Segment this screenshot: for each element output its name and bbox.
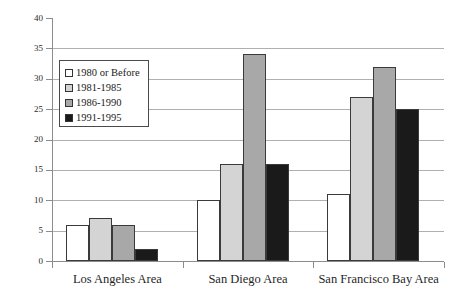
legend-swatch-icon bbox=[65, 99, 73, 107]
bar bbox=[243, 54, 266, 261]
y-tick-label-10: 10 bbox=[0, 196, 43, 205]
bar bbox=[66, 225, 89, 261]
bar bbox=[327, 194, 350, 261]
bar bbox=[266, 164, 289, 261]
bar bbox=[89, 218, 112, 261]
legend-entry-label: 1986-1990 bbox=[76, 97, 122, 108]
y-tick-label-0: 0 bbox=[0, 257, 43, 266]
bar bbox=[350, 97, 373, 261]
y-tick-15 bbox=[46, 170, 52, 171]
y-tick-label-25: 25 bbox=[0, 105, 43, 114]
legend-entry-label: 1980 or Before bbox=[76, 67, 140, 78]
y-tick-label-20: 20 bbox=[0, 135, 43, 144]
y-tick-40 bbox=[46, 18, 52, 19]
y-tick-label-5: 5 bbox=[0, 226, 43, 235]
y-tick-10 bbox=[46, 200, 52, 201]
legend-entry-label: 1991-1995 bbox=[76, 112, 122, 123]
x-separator-tick-1 bbox=[183, 262, 184, 268]
y-tick-30 bbox=[46, 79, 52, 80]
x-separator-tick-0 bbox=[52, 262, 53, 268]
gridline-35 bbox=[52, 48, 444, 49]
legend: 1980 or Before1981-19851986-19901991-199… bbox=[59, 60, 149, 127]
bar bbox=[396, 109, 419, 261]
y-tick-35 bbox=[46, 48, 52, 49]
y-tick-20 bbox=[46, 140, 52, 141]
legend-entry: 1991-1995 bbox=[65, 110, 144, 125]
y-axis-line bbox=[52, 18, 53, 262]
bar bbox=[220, 164, 243, 261]
legend-entry: 1986-1990 bbox=[65, 95, 144, 110]
x-category-label: San Diego Area bbox=[183, 272, 314, 286]
legend-entries: 1980 or Before1981-19851986-19901991-199… bbox=[65, 65, 144, 125]
x-separator-tick-3 bbox=[444, 262, 445, 268]
bar bbox=[135, 249, 158, 261]
x-category-label: San Francisco Bay Area bbox=[313, 272, 444, 286]
legend-swatch-icon bbox=[65, 69, 73, 77]
x-category-label: Los Angeles Area bbox=[52, 272, 183, 286]
y-tick-5 bbox=[46, 231, 52, 232]
legend-entry: 1980 or Before bbox=[65, 65, 144, 80]
y-tick-label-15: 15 bbox=[0, 165, 43, 174]
y-tick-label-30: 30 bbox=[0, 74, 43, 83]
bar-chart: 0510152025303540 Los Angeles AreaSan Die… bbox=[0, 0, 468, 299]
bar bbox=[197, 200, 220, 261]
legend-swatch-icon bbox=[65, 84, 73, 92]
x-separator-tick-2 bbox=[313, 262, 314, 268]
legend-entry-label: 1981-1985 bbox=[76, 82, 122, 93]
legend-entry: 1981-1985 bbox=[65, 80, 144, 95]
y-tick-label-40: 40 bbox=[0, 14, 43, 23]
legend-swatch-icon bbox=[65, 114, 73, 122]
bar bbox=[112, 225, 135, 261]
plot-area bbox=[52, 18, 444, 261]
bar bbox=[373, 67, 396, 261]
x-axis-line bbox=[52, 261, 444, 262]
y-tick-label-35: 35 bbox=[0, 44, 43, 53]
y-tick-25 bbox=[46, 109, 52, 110]
